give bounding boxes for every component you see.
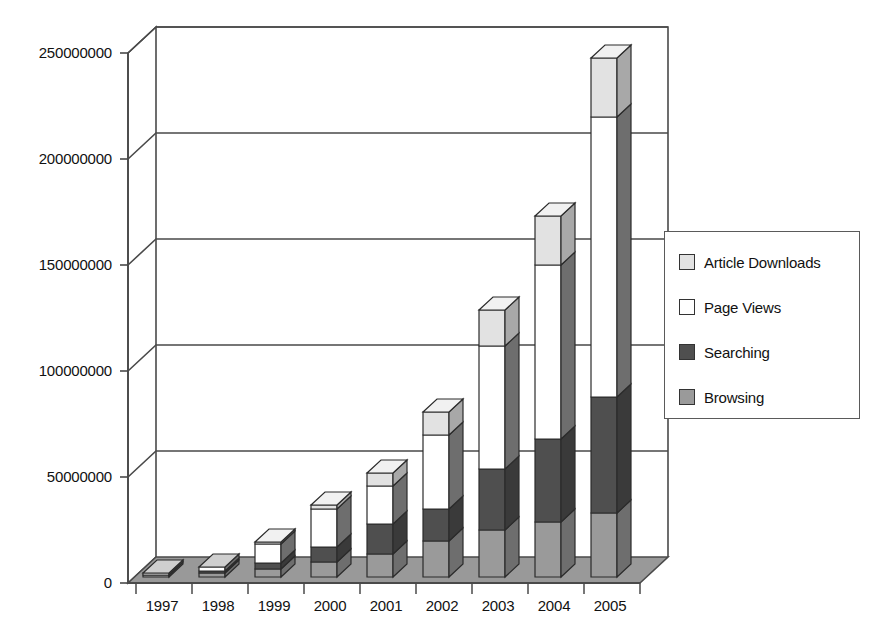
- y-tick-label-50m: 50000000: [12, 468, 112, 485]
- bar-group-2005: [591, 45, 631, 577]
- legend-swatch-searching: [679, 344, 695, 360]
- y-tick-label-200m: 200000000: [3, 150, 112, 167]
- bar-group-2001: [367, 460, 407, 577]
- legend-swatch-page-views: [679, 299, 695, 315]
- bar-group-2004: [535, 203, 575, 577]
- bar-group-2000: [311, 492, 351, 577]
- y-tick-label-0: 0: [12, 574, 112, 591]
- x-tick-label-2000: 2000: [302, 597, 358, 614]
- bar-group-1999: [255, 529, 295, 577]
- x-tick-label-2004: 2004: [526, 597, 582, 614]
- chart-container: 0 50000000 100000000 150000000 200000000…: [0, 0, 884, 630]
- legend-label-page-views: Page Views: [704, 299, 781, 316]
- bar-group-2003: [479, 297, 519, 577]
- legend-swatch-browsing: [679, 389, 695, 405]
- x-axis-ticks: [136, 583, 640, 594]
- y-axis-ticks: [120, 53, 128, 583]
- legend-item-article-downloads[interactable]: Article Downloads: [679, 251, 821, 273]
- x-tick-label-1998: 1998: [190, 597, 246, 614]
- legend-swatch-article-downloads: [679, 254, 695, 270]
- chart-legend: Article Downloads Page Views Searching B…: [664, 231, 860, 419]
- y-tick-label-150m: 150000000: [3, 256, 112, 273]
- bar-group-2002: [423, 399, 463, 577]
- y-tick-label-250m: 250000000: [3, 44, 112, 61]
- x-tick-label-2005: 2005: [582, 597, 638, 614]
- x-tick-label-2003: 2003: [470, 597, 526, 614]
- x-tick-label-1997: 1997: [134, 597, 190, 614]
- legend-label-searching: Searching: [704, 344, 770, 361]
- x-tick-label-2002: 2002: [414, 597, 470, 614]
- y-tick-label-100m: 100000000: [3, 362, 112, 379]
- x-tick-label-1999: 1999: [246, 597, 302, 614]
- left-wall: [128, 27, 156, 583]
- legend-label-browsing: Browsing: [704, 389, 764, 406]
- x-tick-label-2001: 2001: [358, 597, 414, 614]
- legend-item-searching[interactable]: Searching: [679, 341, 770, 363]
- legend-item-browsing[interactable]: Browsing: [679, 386, 764, 408]
- legend-item-page-views[interactable]: Page Views: [679, 296, 781, 318]
- legend-label-article-downloads: Article Downloads: [704, 254, 821, 271]
